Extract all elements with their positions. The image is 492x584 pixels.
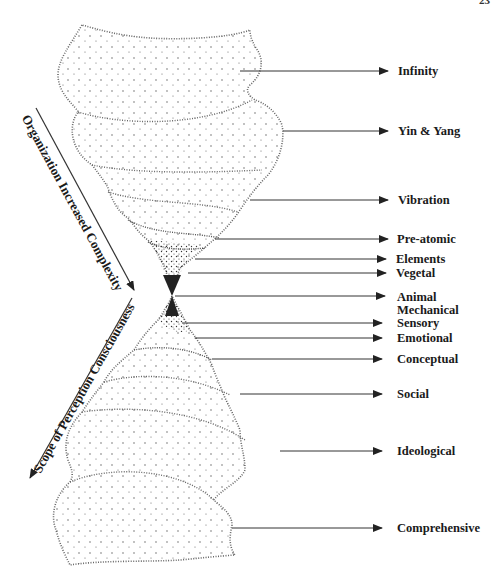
level-label-comprehensive: Comprehensive	[397, 521, 480, 535]
level-label-ideological: Ideological	[397, 444, 455, 458]
level-label-emotional: Emotional	[397, 331, 453, 345]
level-label-vibration: Vibration	[398, 193, 450, 207]
level-label-infinity: Infinity	[398, 64, 438, 78]
level-label-elements: Elements	[396, 252, 445, 266]
level-label-social: Social	[397, 387, 429, 401]
level-label-yin-yang: Yin & Yang	[398, 124, 460, 138]
level-label-animal: Animal	[397, 290, 437, 304]
level-label-conceptual: Conceptual	[397, 352, 458, 366]
lower-funnel	[54, 296, 245, 565]
level-label-pre-atomic: Pre-atomic	[397, 232, 456, 246]
level-label-mechanical: Mechanical	[397, 303, 459, 317]
level-label-sensory: Sensory	[397, 316, 439, 330]
level-label-vegetal: Vegetal	[396, 266, 435, 280]
